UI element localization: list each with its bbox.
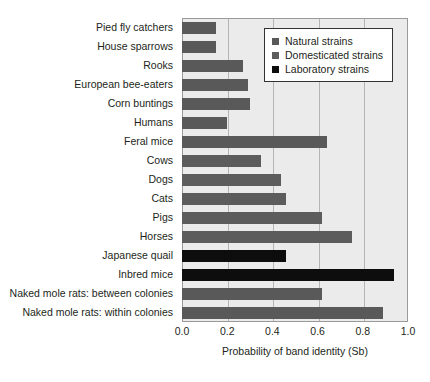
y-axis-label: Naked mole rats: between colonies xyxy=(0,284,178,303)
x-axis-tick-label: 0.0 xyxy=(175,325,190,337)
y-axis-label: Rooks xyxy=(0,56,178,75)
bar-row xyxy=(182,189,408,208)
bar xyxy=(182,98,250,110)
y-axis-label: European bee-eaters xyxy=(0,75,178,94)
bar-row xyxy=(182,94,408,113)
y-axis-label: Dogs xyxy=(0,170,178,189)
bar-row xyxy=(182,303,408,322)
y-axis-label: Cats xyxy=(0,189,178,208)
y-axis-label: Corn buntings xyxy=(0,94,178,113)
bar xyxy=(182,307,383,319)
x-axis-title: Probability of band identity (Sb) xyxy=(182,345,408,357)
bar-row xyxy=(182,132,408,151)
bar-chart: Pied fly catchersHouse sparrowsRooksEuro… xyxy=(0,0,430,382)
y-axis-label: Humans xyxy=(0,113,178,132)
x-axis-tick-label: 0.6 xyxy=(310,325,325,337)
y-axis-category-labels: Pied fly catchersHouse sparrowsRooksEuro… xyxy=(0,18,178,322)
bar-row xyxy=(182,208,408,227)
bar xyxy=(182,155,261,167)
legend-label: Natural strains xyxy=(285,34,353,48)
legend-item: Domesticated strains xyxy=(272,48,383,62)
y-axis-label: Feral mice xyxy=(0,132,178,151)
bar-row xyxy=(182,227,408,246)
legend-item: Laboratory strains xyxy=(272,62,383,76)
bar-row xyxy=(182,113,408,132)
y-axis-label: Naked mole rats: within colonies xyxy=(0,303,178,322)
legend: Natural strainsDomesticated strainsLabor… xyxy=(264,28,393,82)
bar xyxy=(182,22,216,34)
legend-label: Domesticated strains xyxy=(285,48,383,62)
x-axis-tick-label: 0.2 xyxy=(220,325,235,337)
legend-swatch-icon xyxy=(272,52,279,59)
legend-label: Laboratory strains xyxy=(285,62,369,76)
bar xyxy=(182,41,216,53)
y-axis-label: Pied fly catchers xyxy=(0,18,178,37)
bar xyxy=(182,288,322,300)
x-axis-tick-labels: 0.00.20.40.60.81.0 xyxy=(182,325,408,341)
y-axis-label: Horses xyxy=(0,227,178,246)
legend-item: Natural strains xyxy=(272,34,383,48)
x-axis-tick-label: 1.0 xyxy=(401,325,416,337)
bar xyxy=(182,79,248,91)
bar-row xyxy=(182,284,408,303)
x-axis-tick-label: 0.8 xyxy=(355,325,370,337)
bar xyxy=(182,212,322,224)
y-axis-label: Inbred mice xyxy=(0,265,178,284)
bar xyxy=(182,60,243,72)
legend-swatch-icon xyxy=(272,66,279,73)
bar xyxy=(182,193,286,205)
bar xyxy=(182,269,394,281)
bar-row xyxy=(182,265,408,284)
y-axis-label: Pigs xyxy=(0,208,178,227)
bar xyxy=(182,136,327,148)
bar xyxy=(182,117,227,129)
bar-row xyxy=(182,246,408,265)
y-axis-label: Japanese quail xyxy=(0,246,178,265)
x-axis-tick-label: 0.4 xyxy=(265,325,280,337)
y-axis-label: Cows xyxy=(0,151,178,170)
bar xyxy=(182,231,352,243)
bar-row xyxy=(182,151,408,170)
bar xyxy=(182,174,281,186)
bar-row xyxy=(182,170,408,189)
legend-swatch-icon xyxy=(272,38,279,45)
bar xyxy=(182,250,286,262)
y-axis-label: House sparrows xyxy=(0,37,178,56)
